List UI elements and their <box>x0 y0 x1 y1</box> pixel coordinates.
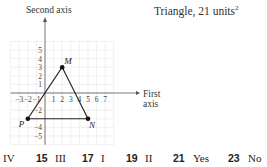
svg-text:1: 1 <box>38 80 42 89</box>
answer-23-text: No <box>248 152 261 164</box>
svg-text:−3: −3 <box>15 95 23 104</box>
answer-23-number: 23 <box>228 152 240 164</box>
answer-17-text: I <box>101 152 105 164</box>
answer-15-number: 15 <box>36 152 48 164</box>
answer-19-number: 19 <box>126 152 138 164</box>
svg-text:2: 2 <box>60 95 64 104</box>
svg-text:6: 6 <box>95 95 99 104</box>
svg-text:−5: −5 <box>34 132 42 141</box>
units-exponent: 2 <box>235 4 239 12</box>
x-axis-label-line1: First <box>143 89 161 99</box>
answer-21-number: 21 <box>173 152 185 164</box>
svg-text:5: 5 <box>86 95 90 104</box>
point-p <box>26 117 31 122</box>
axes <box>11 17 140 145</box>
answer-19-text: II <box>145 152 152 164</box>
answer-17-number: 17 <box>82 152 94 164</box>
svg-text:3: 3 <box>69 95 73 104</box>
svg-text:7: 7 <box>103 95 107 104</box>
y-axis-label: Second axis <box>26 5 72 15</box>
svg-text:1: 1 <box>52 95 56 104</box>
answer-21-text: Yes <box>193 152 209 164</box>
point-label-p: P <box>18 119 25 129</box>
answer-title: Triangle, 21 units2 <box>154 4 239 17</box>
answer-15-text: III <box>55 152 66 164</box>
answer-13-text: IV <box>3 152 15 164</box>
point-label-m: M <box>63 56 72 66</box>
answer-title-text: Triangle, 21 units <box>154 5 235 17</box>
coordinate-plane: −3−2−1123456754321−2−4−5 MNP Second axis… <box>0 0 267 150</box>
svg-text:−1: −1 <box>32 95 40 104</box>
svg-text:−2: −2 <box>24 95 32 104</box>
point-label-n: N <box>88 120 96 130</box>
x-axis-label-line2: axis <box>143 99 159 109</box>
